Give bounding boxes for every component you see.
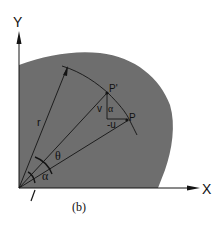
label-r: r <box>37 116 41 128</box>
label-theta: θ <box>55 149 61 163</box>
shaded-region <box>19 52 173 188</box>
label-v: v <box>97 103 102 114</box>
label-alpha-small: α <box>108 103 114 114</box>
figure-caption: (b) <box>72 200 86 214</box>
label-minus-u: -u <box>107 119 116 130</box>
label-alpha: α <box>42 169 49 183</box>
y-axis-arrowhead-icon <box>17 31 22 44</box>
x-axis-label: X <box>202 181 212 197</box>
label-p-prime: P' <box>109 83 118 94</box>
x-axis-arrowhead-icon <box>187 186 200 191</box>
polar-rotation-diagram: Y X r θ α α P' P v -u (b) <box>0 0 223 231</box>
alpha-arc-tail <box>31 190 35 201</box>
y-axis-label: Y <box>13 14 23 30</box>
label-p: P <box>129 112 136 123</box>
